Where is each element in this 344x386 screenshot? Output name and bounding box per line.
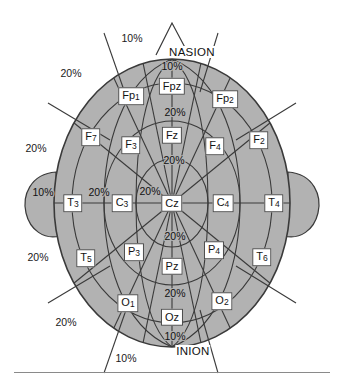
electrode-fp2[interactable]: Fp2 — [212, 90, 238, 108]
pct-diag-left-lower-20: 20% — [27, 252, 48, 263]
electrode-fpz[interactable]: Fpz — [159, 78, 185, 95]
pct-coronal-c3-cz: 20% — [139, 186, 160, 197]
pct-sagittal-cz-pz: 20% — [164, 231, 185, 242]
electrode-c3[interactable]: C3 — [112, 194, 133, 212]
electrode-fp1[interactable]: Fp1 — [118, 87, 144, 105]
footer-divider — [14, 372, 330, 373]
pct-diag-left-bottom-20: 20% — [55, 317, 76, 328]
inion-label: INION — [175, 345, 210, 357]
pct-sagittal-fpz-fz: 20% — [164, 107, 185, 118]
electrode-t4[interactable]: T4 — [264, 194, 283, 212]
electrode-pz[interactable]: Pz — [162, 258, 183, 275]
pct-diag-left-upper-20: 20% — [60, 68, 81, 79]
electrode-f7[interactable]: F7 — [81, 128, 100, 146]
pct-diag-left-mid-20: 20% — [25, 143, 46, 154]
pct-sagittal-pz-oz: 20% — [164, 288, 185, 299]
pct-diag-bottom-left-10: 10% — [115, 353, 136, 364]
electrode-t5[interactable]: T5 — [76, 249, 95, 267]
pct-coronal-ear-t3: 10% — [32, 187, 53, 198]
electrode-p3[interactable]: P3 — [124, 243, 144, 261]
electrode-cz[interactable]: Cz — [161, 195, 182, 212]
electrode-o2[interactable]: O2 — [211, 292, 232, 310]
pct-diag-upper-left-10: 10% — [121, 33, 142, 44]
electrode-f3[interactable]: F3 — [121, 136, 140, 154]
electrode-t6[interactable]: T6 — [252, 248, 271, 266]
figure-canvas: NASION INION FpzFp1Fp2FzF7F3F4F2T3C3CzC4… — [0, 0, 344, 386]
electrode-t3[interactable]: T3 — [63, 194, 82, 212]
pct-coronal-t3-c3: 20% — [88, 187, 109, 198]
pct-sagittal-nasion-fpz: 10% — [161, 61, 182, 72]
electrode-o1[interactable]: O1 — [117, 294, 138, 312]
electrode-p4[interactable]: P4 — [204, 241, 224, 259]
pct-sagittal-oz-inion: 10% — [164, 331, 185, 342]
electrode-oz[interactable]: Oz — [161, 309, 183, 326]
electrode-c4[interactable]: C4 — [213, 194, 234, 212]
pct-sagittal-fz-cz: 20% — [163, 155, 184, 166]
electrode-f4[interactable]: F4 — [205, 137, 224, 155]
nasion-label: NASION — [168, 46, 216, 58]
electrode-f2[interactable]: F2 — [249, 131, 268, 149]
electrode-fz[interactable]: Fz — [162, 127, 182, 144]
